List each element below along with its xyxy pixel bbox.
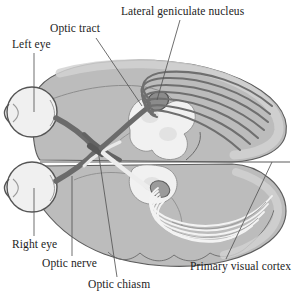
label-optic-tract: Optic tract [50, 23, 100, 35]
right-eye [5, 162, 58, 212]
left-eye-globe [7, 87, 57, 137]
label-optic-nerve: Optic nerve [42, 258, 97, 270]
label-lateral-geniculate-nucleus: Lateral geniculate nucleus [121, 6, 244, 18]
label-left-eye: Left eye [12, 39, 51, 51]
thalamus-nucleus-b [159, 127, 177, 141]
visual-pathway-figure: Left eye Optic tract Lateral geniculate … [0, 0, 299, 300]
label-right-eye: Right eye [12, 239, 57, 251]
label-primary-visual-cortex: Primary visual cortex [190, 261, 291, 273]
left-eye [5, 87, 58, 137]
label-optic-chiasm: Optic chiasm [88, 279, 150, 291]
right-eye-globe [7, 162, 57, 212]
